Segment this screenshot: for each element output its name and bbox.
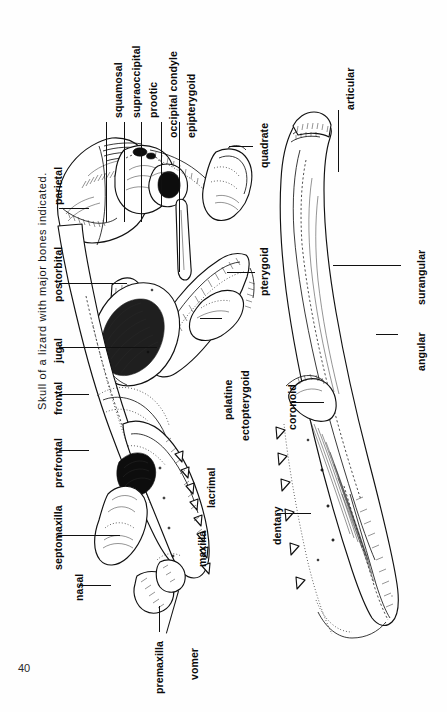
leader-squamosal [106, 122, 107, 222]
leader-supraoccipital [124, 122, 125, 222]
label-prefrontal: prefrontal [52, 438, 64, 488]
label-prootic: prootic [147, 82, 159, 118]
leader-surangular [333, 265, 401, 266]
label-premaxilla: premaxilla [153, 641, 165, 694]
leader-prootic [141, 122, 142, 222]
leader-occipital-condyle [161, 122, 162, 207]
leader-angular [376, 334, 398, 335]
textbook-page: squamosal supraoccipital prootic occipit… [0, 0, 447, 712]
leader-premaxilla [159, 606, 160, 632]
label-frontal: frontal [52, 382, 64, 415]
label-dentary: dentary [271, 506, 283, 545]
label-pterygoid: pterygoid [258, 247, 270, 296]
figure-caption: Skull of a lizard with major bones indic… [36, 172, 48, 410]
label-jugal: jugal [52, 338, 64, 363]
leader-epipterygoid [179, 122, 180, 272]
label-vomer: vomer [188, 648, 200, 680]
leader-parietal-seg [59, 208, 89, 209]
label-supraoccipital: supraoccipital [130, 45, 142, 118]
label-lacrimal: lacrimal [205, 468, 217, 509]
leader-ectopterygoid [200, 318, 222, 319]
label-maxilla: maxilla [196, 531, 208, 567]
label-surangular: surangular [415, 250, 427, 305]
skull-drawing [58, 138, 255, 613]
mandible-drawing [276, 112, 398, 638]
label-coronoid: coronoid [286, 384, 298, 430]
label-palatine: palatine [222, 380, 234, 420]
label-ectopterygoid: ectopterygoid [239, 370, 251, 441]
leader-postorbital [59, 283, 127, 284]
leader-pterygoid [227, 272, 255, 273]
leader-septomaxilla [58, 535, 120, 536]
label-parietal: parietal [52, 167, 64, 205]
label-squamosal: squamosal [112, 62, 124, 118]
page-number: 40 [18, 662, 30, 674]
label-quadrate: quadrate [258, 123, 270, 168]
label-articular: articular [344, 68, 356, 110]
label-epipterygoid: epipterygoid [185, 74, 197, 138]
label-postorbital: postorbital [52, 247, 64, 302]
label-nasal: nasal [73, 574, 85, 601]
leader-articular [338, 110, 339, 172]
leader-quadrate [229, 146, 253, 147]
label-septomaxilla: septomaxilla [52, 505, 64, 570]
figure-artwork [0, 0, 447, 712]
label-angular: angular [415, 332, 427, 371]
label-occipital-condyle: occipital condyle [167, 51, 179, 138]
leader-jugal [59, 347, 157, 348]
